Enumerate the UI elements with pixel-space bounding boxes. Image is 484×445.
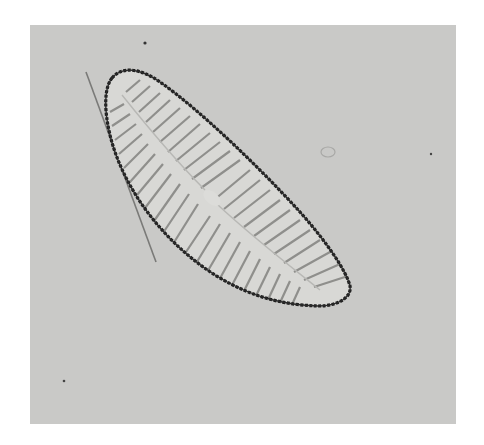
diatom-illustration: [0, 0, 484, 445]
speck: [430, 153, 432, 155]
diatom-valve: [106, 70, 350, 309]
speck: [63, 380, 66, 383]
bubble: [321, 147, 335, 157]
speck: [143, 41, 146, 44]
